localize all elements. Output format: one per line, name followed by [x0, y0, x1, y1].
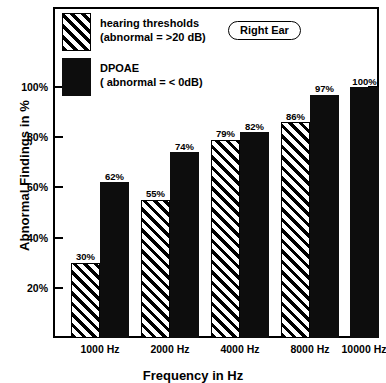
- legend-swatch-hatched-icon: [62, 13, 91, 51]
- legend-label-hearing-line2: (abnormal = >20 dB): [100, 31, 206, 45]
- bar-value-hearing-4000hz: 79%: [216, 129, 235, 139]
- bar-value-dpoae-2000hz: 74%: [175, 142, 194, 152]
- chart-legend: hearing thresholds (abnormal = >20 dB) D…: [62, 13, 206, 103]
- legend-item-dpoae: DPOAE ( abnormal = < 0dB): [62, 58, 206, 96]
- bar-value-dpoae-1000hz: 62%: [105, 172, 124, 182]
- bar-value-hearing-1000hz: 30%: [76, 252, 95, 262]
- bar-value-dpoae-4000hz: 82%: [245, 122, 264, 132]
- bar-hearing-4000hz: 79%: [211, 140, 240, 338]
- bar-dpoae-10000hz: 100%: [350, 87, 379, 338]
- bar-value-dpoae-10000hz: 100%: [352, 77, 376, 87]
- x-tick-label-4000hz: 4000 Hz: [220, 343, 259, 355]
- bar-dpoae-2000hz: 74%: [170, 152, 199, 338]
- bar-hearing-2000hz: 55%: [141, 200, 170, 338]
- bar-value-hearing-2000hz: 55%: [146, 189, 165, 199]
- x-tick-label-10000hz: 10000 Hz: [342, 343, 386, 355]
- legend-label-dpoae-line1: DPOAE: [100, 62, 139, 74]
- x-axis-title: Frequency in Hz: [0, 368, 386, 383]
- legend-label-dpoae: DPOAE ( abnormal = < 0dB): [100, 58, 203, 89]
- bar-value-hearing-8000hz: 86%: [286, 112, 305, 122]
- bar-hearing-1000hz: 30%: [71, 263, 100, 338]
- legend-label-hearing-line1: hearing thresholds: [100, 17, 199, 29]
- legend-swatch-solid-icon: [62, 58, 91, 96]
- legend-item-hearing-thresholds: hearing thresholds (abnormal = >20 dB): [62, 13, 206, 51]
- bar-hearing-8000hz: 86%: [281, 122, 310, 338]
- bar-dpoae-8000hz: 97%: [310, 95, 339, 339]
- bar-dpoae-4000hz: 82%: [240, 132, 269, 338]
- x-tick-label-8000hz: 8000 Hz: [290, 343, 329, 355]
- x-tick-label-1000hz: 1000 Hz: [80, 343, 119, 355]
- bar-value-dpoae-8000hz: 97%: [315, 84, 334, 94]
- legend-label-dpoae-line2: ( abnormal = < 0dB): [100, 76, 203, 90]
- x-tick-label-2000hz: 2000 Hz: [150, 343, 189, 355]
- ear-badge: Right Ear: [228, 21, 301, 40]
- legend-label-hearing-thresholds: hearing thresholds (abnormal = >20 dB): [100, 13, 206, 44]
- bar-dpoae-1000hz: 62%: [100, 182, 129, 338]
